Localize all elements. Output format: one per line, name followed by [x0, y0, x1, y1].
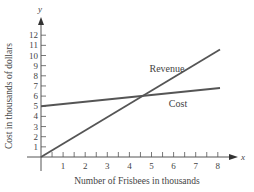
y-tick-label: 8	[34, 71, 39, 81]
y-axis-label: Cost in thousands of dollars	[4, 43, 14, 149]
y-tick-label: 4	[34, 111, 39, 121]
x-tick-label: 8	[216, 161, 221, 171]
y-tick-label: 5	[34, 101, 39, 111]
revenue-label: Revenue	[149, 63, 185, 74]
x-tick-label: 4	[127, 161, 132, 171]
x-tick-label: 7	[193, 161, 198, 171]
y-tick-label: 1	[34, 142, 39, 152]
series-lines: RevenueCost	[41, 49, 220, 157]
x-axis-label: Number of Frisbees in thousands	[74, 176, 200, 186]
ticks: 12345678123456789101112	[29, 30, 221, 171]
x-tick-label: 2	[83, 161, 88, 171]
y-tick-label: 11	[29, 40, 38, 50]
break-even-chart: 12345678123456789101112 RevenueCost Cost…	[0, 0, 254, 192]
y-tick-label: 9	[34, 61, 39, 71]
x-axis-arrow-icon	[229, 154, 238, 160]
y-tick-label: 3	[34, 122, 39, 132]
y-axis-letter: y	[37, 4, 42, 14]
x-tick-label: 3	[105, 161, 110, 171]
axes	[27, 17, 238, 171]
y-tick-label: 2	[34, 132, 39, 142]
y-tick-label: 10	[29, 51, 39, 61]
cost-label: Cost	[169, 98, 188, 109]
x-tick-label: 6	[171, 161, 176, 171]
x-tick-label: 5	[149, 161, 154, 171]
x-axis-letter: x	[240, 152, 245, 162]
y-tick-label: 6	[34, 91, 39, 101]
y-tick-label: 12	[29, 30, 38, 40]
y-tick-label: 7	[34, 81, 39, 91]
x-tick-label: 1	[61, 161, 66, 171]
y-axis-arrow-icon	[38, 17, 44, 25]
